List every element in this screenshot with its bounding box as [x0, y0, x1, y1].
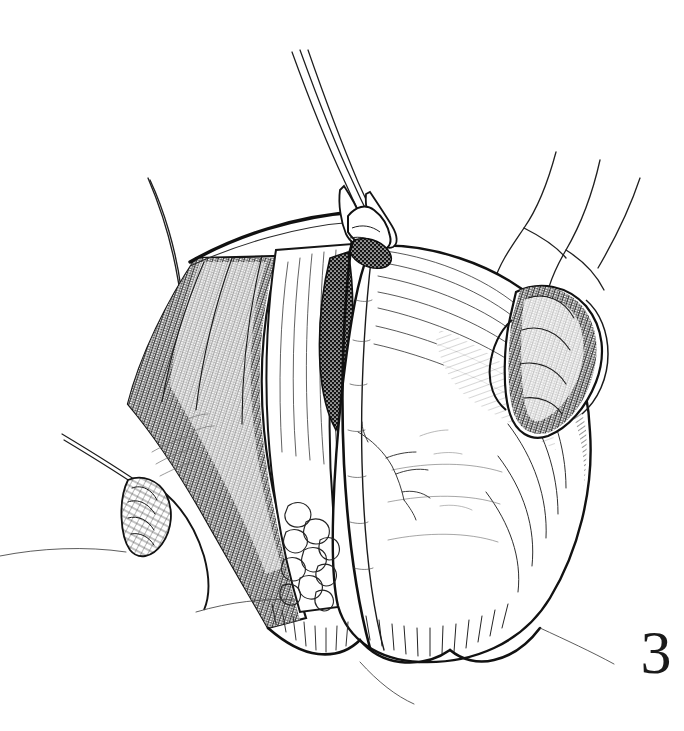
- figure-page: 3 surgical field with tissue mass elevat…: [0, 0, 684, 731]
- figure-number-label: 3: [630, 616, 682, 688]
- surgical-illustration: [0, 0, 684, 731]
